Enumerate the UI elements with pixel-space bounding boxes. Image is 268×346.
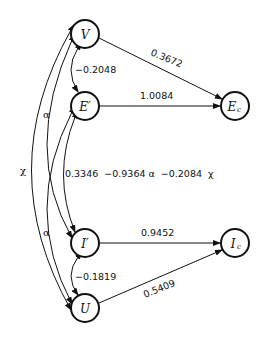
path-u-to-ic — [99, 250, 222, 303]
svg-text:U: U — [80, 302, 91, 316]
svg-text:c: c — [237, 106, 241, 114]
path-diagram: V E′ I′ U E c I c 0.3672 1.0084 0.9452 0… — [0, 0, 268, 346]
label-alpha-lower: α — [43, 227, 50, 238]
label-ep-ec: 1.0084 — [140, 90, 173, 101]
corr-ep-u-alpha — [47, 112, 72, 304]
node-u: U — [71, 294, 99, 322]
svg-text:c: c — [237, 243, 241, 251]
node-v: V — [71, 20, 99, 48]
label-u-ic: 0.5409 — [142, 277, 177, 300]
label-ep-ip: 0.3346 −0.9364 α −0.2084 χ — [65, 168, 214, 179]
label-v-ep: −0.2048 — [75, 64, 116, 75]
svg-text:E: E — [227, 100, 237, 114]
label-chi: χ — [20, 165, 26, 176]
svg-text:I′: I′ — [80, 237, 89, 251]
svg-text:V: V — [81, 28, 91, 42]
node-e-c: E c — [221, 92, 249, 120]
node-i-c: I c — [221, 229, 249, 257]
node-e-prime: E′ — [71, 92, 99, 120]
node-i-prime: I′ — [71, 229, 99, 257]
label-ip-ic: 0.9452 — [141, 227, 174, 238]
label-ip-u: −0.1819 — [75, 271, 116, 282]
svg-text:E′: E′ — [78, 100, 91, 114]
label-alpha-upper: α — [43, 109, 50, 120]
svg-text:I: I — [230, 237, 236, 251]
